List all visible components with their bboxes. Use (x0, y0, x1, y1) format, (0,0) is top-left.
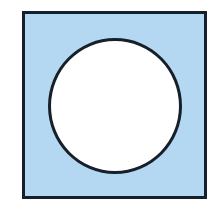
figure-canvas: Light blue square with a white circle in… (0, 0, 210, 215)
circle-shape (48, 38, 182, 174)
